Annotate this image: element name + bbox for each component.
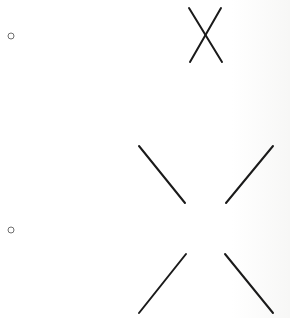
diagram-svg: [0, 0, 290, 318]
split-x-top-right-line: [226, 146, 273, 203]
markers: [8, 33, 14, 233]
crossed-x-figure: [189, 8, 222, 62]
split-x-figure: [139, 146, 273, 313]
split-x-top-left-line: [139, 146, 185, 203]
marker-circle-2: [8, 227, 14, 233]
split-x-bottom-right-line: [225, 254, 273, 313]
split-x-bottom-left-line: [139, 254, 186, 313]
diagram-canvas: [0, 0, 290, 318]
marker-circle-1: [8, 33, 14, 39]
